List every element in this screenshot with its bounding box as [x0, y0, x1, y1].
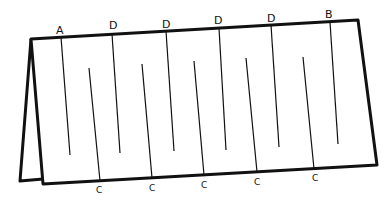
folded-card-diagram: A D D D D B C C C C C: [0, 0, 391, 200]
label-c3: C: [201, 180, 207, 190]
label-c4: C: [254, 177, 260, 187]
label-b: B: [325, 8, 333, 21]
label-d2: D: [162, 18, 170, 31]
label-d4: D: [267, 12, 275, 25]
label-d3: D: [214, 14, 222, 27]
label-c1: C: [96, 185, 102, 195]
label-a: A: [56, 24, 64, 37]
front-panel-outline: [31, 20, 377, 184]
label-c5: C: [312, 173, 318, 183]
label-d1: D: [109, 19, 117, 32]
label-c2: C: [149, 183, 155, 193]
